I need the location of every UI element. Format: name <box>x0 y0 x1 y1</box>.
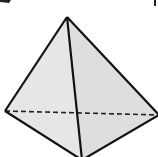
tetrahedron-diagram <box>0 0 158 157</box>
tetrahedron-svg <box>0 0 158 157</box>
right-face <box>67 17 158 157</box>
crop-artifact-right <box>154 0 156 6</box>
crop-artifact-left <box>0 0 11 3</box>
